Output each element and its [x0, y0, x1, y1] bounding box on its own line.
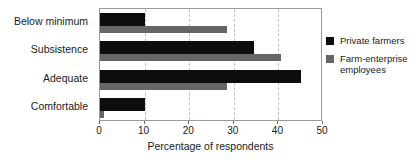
- bar-chart: Below minimumSubsistenceAdequateComforta…: [0, 0, 419, 164]
- x-tick-mark: [188, 121, 189, 124]
- category-label: Adequate: [43, 73, 88, 84]
- legend-swatch-icon: [326, 55, 334, 63]
- bar: [100, 111, 104, 118]
- x-tick-label: 50: [316, 125, 327, 136]
- x-tick-label: 10: [138, 125, 149, 136]
- x-tick-mark: [144, 121, 145, 124]
- x-tick-mark: [99, 121, 100, 124]
- x-tick-mark: [233, 121, 234, 124]
- legend-label: Farm-enterprise employees: [340, 54, 418, 75]
- x-tick-label: 20: [183, 125, 194, 136]
- category-axis-labels: Below minimumSubsistenceAdequateComforta…: [0, 8, 94, 121]
- gridline: [278, 9, 279, 120]
- bar: [100, 83, 227, 90]
- category-label: Subsistence: [31, 44, 88, 55]
- x-tick-mark: [277, 121, 278, 124]
- legend-item: Farm-enterprise employees: [326, 54, 418, 75]
- x-tick-label: 40: [272, 125, 283, 136]
- legend-item: Private farmers: [326, 36, 418, 47]
- gridline: [234, 9, 235, 120]
- bar: [100, 26, 227, 33]
- x-tick-label: 0: [96, 125, 102, 136]
- plot-area: [99, 8, 322, 121]
- bar: [100, 70, 301, 83]
- bar: [100, 54, 281, 61]
- category-label: Below minimum: [14, 16, 88, 27]
- x-axis: 01020304050: [99, 121, 322, 137]
- bar: [100, 41, 254, 54]
- x-tick-mark: [322, 121, 323, 124]
- legend-label: Private farmers: [340, 36, 418, 47]
- legend-swatch-icon: [326, 37, 334, 45]
- bar: [100, 98, 145, 111]
- category-label: Comfortable: [31, 101, 88, 112]
- bar: [100, 13, 145, 26]
- x-tick-label: 30: [227, 125, 238, 136]
- chart-legend: Private farmersFarm-enterprise employees: [326, 36, 418, 82]
- x-axis-title: Percentage of respondents: [99, 140, 322, 152]
